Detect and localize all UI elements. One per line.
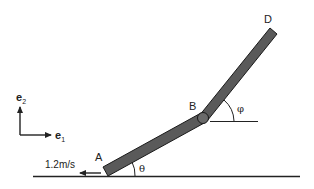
joint-b bbox=[198, 113, 209, 124]
point-a-label: A bbox=[95, 151, 103, 163]
theta-label: θ bbox=[139, 163, 145, 174]
phi-label: φ bbox=[237, 103, 244, 114]
e2-label: e2 bbox=[16, 91, 26, 105]
velocity-label: 1.2m/s bbox=[45, 159, 75, 170]
point-d-label: D bbox=[264, 13, 272, 25]
bar-ab bbox=[103, 113, 206, 176]
phi-angle-arc bbox=[224, 100, 234, 121]
two-bar-linkage-diagram: e2 e1 1.2m/s A B D θ φ bbox=[0, 0, 314, 189]
point-b-label: B bbox=[189, 100, 196, 112]
theta-angle-arc bbox=[132, 162, 135, 176]
coordinate-axes: e2 e1 bbox=[16, 91, 65, 143]
e1-label: e1 bbox=[55, 129, 65, 143]
